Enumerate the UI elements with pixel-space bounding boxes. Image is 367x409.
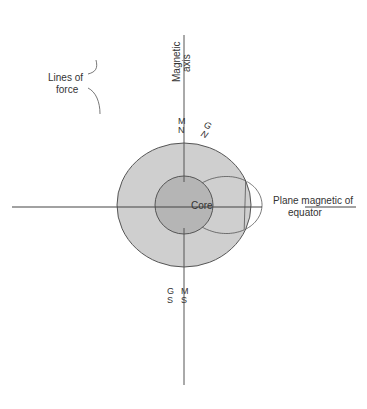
- magnetic-axis-label-2: axis: [181, 54, 192, 72]
- geographic-south-S: S: [167, 295, 173, 305]
- equator-label-1: Plane magnetic of: [273, 195, 353, 206]
- magnetic-field-diagram: Lines of force Magnetic axis M N G N G S…: [0, 0, 367, 409]
- callout-leader-lower: [88, 88, 100, 114]
- geographic-north-N: N: [199, 128, 210, 140]
- lines-of-force-label-1: Lines of: [48, 72, 83, 83]
- core-label: Core: [191, 200, 213, 211]
- magnetic-north-N: N: [178, 125, 185, 135]
- equator-label-2: equator: [288, 207, 323, 218]
- magnetic-axis-label: Magnetic axis: [171, 41, 192, 82]
- callout-leader-upper: [88, 60, 97, 74]
- magnetic-south-S: S: [181, 295, 187, 305]
- lines-of-force-label-2: force: [56, 84, 79, 95]
